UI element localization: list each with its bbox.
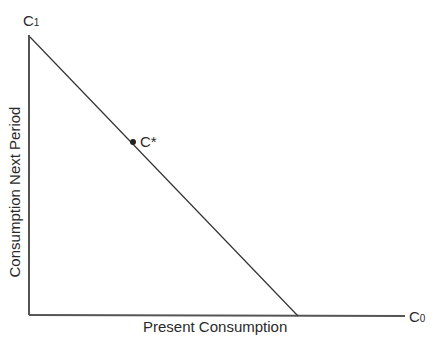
y-axis-label: Consumption Next Period xyxy=(6,107,23,278)
x-axis-end-label: C0 xyxy=(409,308,425,325)
optimal-point-marker xyxy=(130,139,136,145)
x-axis xyxy=(29,315,405,316)
y-end-base: C xyxy=(23,12,34,29)
x-end-base: C xyxy=(409,308,420,325)
x-end-sub: 0 xyxy=(420,313,426,324)
optimal-point-label: C* xyxy=(140,133,157,150)
diagram-canvas xyxy=(0,0,442,351)
x-axis-label: Present Consumption xyxy=(143,318,287,335)
y-axis-end-label: C1 xyxy=(23,12,39,29)
y-end-sub: 1 xyxy=(34,17,40,28)
budget-line xyxy=(30,37,298,316)
